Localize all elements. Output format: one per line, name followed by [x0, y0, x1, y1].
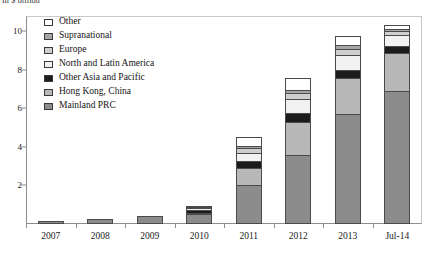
bar-segment[interactable] [236, 185, 262, 224]
bar-segment[interactable] [335, 49, 361, 56]
x-axis-tick-label: 2010 [190, 231, 209, 241]
bar-segment[interactable] [335, 78, 361, 115]
x-axis-tick-label: Jul-14 [385, 231, 409, 241]
legend-item-label: North and Latin America [59, 59, 154, 69]
x-axis-tick-label: 2012 [289, 231, 308, 241]
bar-segment[interactable] [384, 46, 410, 53]
legend-swatch-icon [44, 89, 53, 96]
bar-segment[interactable] [285, 113, 311, 122]
chart-legend: OtherSupranationalEuropeNorth and Latin … [44, 15, 154, 113]
chart-unit-caption: In $ billion [2, 0, 40, 5]
y-axis-tick-mark [21, 108, 26, 109]
y-axis-tick-mark [21, 185, 26, 186]
legend-swatch-icon [44, 19, 53, 26]
x-axis-tick-mark [274, 224, 275, 228]
legend-item[interactable]: Mainland PRC [44, 99, 154, 113]
bar-segment[interactable] [335, 55, 361, 69]
bar-segment[interactable] [236, 168, 262, 185]
bar-segment[interactable] [236, 137, 262, 146]
bar-segment[interactable] [285, 155, 311, 224]
legend-swatch-icon [44, 33, 53, 40]
bar-segment[interactable] [285, 99, 311, 113]
x-axis-tick-mark [323, 224, 324, 228]
bar-segment[interactable] [285, 122, 311, 155]
legend-item[interactable]: Europe [44, 43, 154, 57]
bar-segment[interactable] [335, 36, 361, 45]
y-axis-tick-mark [21, 69, 26, 70]
x-axis-tick-label: 2007 [41, 231, 60, 241]
legend-item-label: Other [59, 17, 81, 27]
bar-segment[interactable] [335, 70, 361, 78]
bar-2011[interactable] [236, 137, 262, 224]
x-axis-tick-label: 2008 [91, 231, 110, 241]
legend-item-label: Other Asia and Pacific [59, 73, 145, 83]
bar-segment[interactable] [384, 35, 410, 46]
bar-segment[interactable] [335, 114, 361, 224]
legend-item[interactable]: Supranational [44, 29, 154, 43]
x-axis-tick-mark [26, 224, 27, 228]
bar-segment[interactable] [38, 221, 64, 224]
bar-2009[interactable] [137, 216, 163, 224]
x-axis-tick-mark [175, 224, 176, 228]
bar-2013[interactable] [335, 36, 361, 224]
legend-item-label: Europe [59, 45, 86, 55]
x-axis-tick-label: 2009 [140, 231, 159, 241]
legend-swatch-icon [44, 103, 53, 110]
bar-Jul-14[interactable] [384, 25, 410, 224]
bar-2007[interactable] [38, 221, 64, 224]
bar-segment[interactable] [236, 161, 262, 168]
legend-item[interactable]: Other Asia and Pacific [44, 71, 154, 85]
x-axis-tick-label: 2013 [338, 231, 357, 241]
chart-root: In $ billion 246810 20072008200920102011… [0, 0, 426, 262]
legend-item-label: Supranational [59, 31, 112, 41]
bar-2012[interactable] [285, 78, 311, 224]
bar-segment[interactable] [384, 91, 410, 224]
legend-swatch-icon [44, 47, 53, 54]
bar-segment[interactable] [384, 53, 410, 92]
legend-item-label: Hong Kong, China [59, 87, 131, 97]
bar-segment[interactable] [137, 216, 163, 224]
legend-item[interactable]: Other [44, 15, 154, 29]
bar-2010[interactable] [186, 206, 212, 224]
x-axis-tick-mark [125, 224, 126, 228]
x-axis-tick-mark [224, 224, 225, 228]
bar-2008[interactable] [87, 219, 113, 224]
bar-segment[interactable] [236, 153, 262, 162]
bar-segment[interactable] [186, 214, 212, 224]
x-axis-tick-mark [373, 224, 374, 228]
x-axis-tick-mark [76, 224, 77, 228]
legend-swatch-icon [44, 61, 53, 68]
legend-swatch-icon [44, 75, 53, 82]
x-axis-tick-label: 2011 [239, 231, 258, 241]
legend-item-label: Mainland PRC [59, 101, 116, 111]
legend-item[interactable]: Hong Kong, China [44, 85, 154, 99]
legend-item[interactable]: North and Latin America [44, 57, 154, 71]
y-axis-tick-mark [21, 31, 26, 32]
y-axis-tick-mark [21, 146, 26, 147]
bar-segment[interactable] [285, 78, 311, 91]
bar-segment[interactable] [87, 219, 113, 224]
